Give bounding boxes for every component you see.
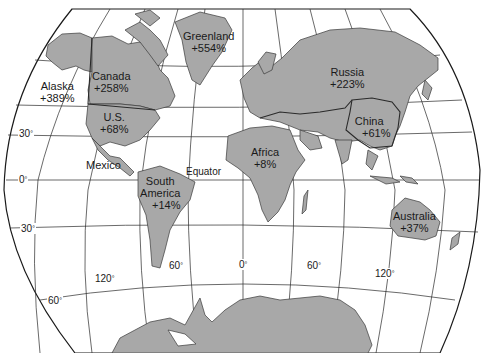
region-value: +8% xyxy=(251,158,279,170)
region-value: +61% xyxy=(348,127,390,139)
label-south-america: South America +14% xyxy=(140,175,180,211)
longitude-label-60w: 60° xyxy=(168,260,184,271)
region-value: +554% xyxy=(183,42,234,54)
latitude-label-0: 0° xyxy=(18,174,28,185)
label-alaska: Alaska +389% xyxy=(40,80,75,104)
region-name: China xyxy=(348,115,390,127)
label-africa: Africa +8% xyxy=(251,146,279,170)
label-mexico: Mexico xyxy=(86,159,121,171)
region-value: +258% xyxy=(92,82,131,94)
region-name-line2: America xyxy=(140,187,180,199)
region-value: +14% xyxy=(140,199,180,211)
longitude-label-120e: 120° xyxy=(374,268,396,279)
label-australia: Australia +37% xyxy=(393,210,436,234)
region-name: U.S. xyxy=(100,111,128,123)
label-greenland: Greenland +554% xyxy=(183,30,234,54)
label-china: China +61% xyxy=(348,115,390,139)
region-value: +37% xyxy=(393,222,436,234)
region-name: Greenland xyxy=(183,30,234,42)
region-name-line1: South xyxy=(140,175,180,187)
label-russia: Russia +223% xyxy=(330,66,365,90)
region-name: Australia xyxy=(393,210,436,222)
region-name: Canada xyxy=(92,70,131,82)
africa-shape xyxy=(226,126,305,222)
region-name: Russia xyxy=(330,66,365,78)
world-map xyxy=(0,0,485,353)
region-name: Mexico xyxy=(86,159,121,171)
longitude-label-0: 0° xyxy=(238,259,248,270)
region-name: Alaska xyxy=(40,80,75,92)
region-value: +389% xyxy=(40,92,75,104)
longitude-label-120w: 120° xyxy=(94,273,116,284)
antarctica-shape xyxy=(112,296,372,353)
label-equator: Equator xyxy=(186,166,221,178)
alaska-shape xyxy=(46,33,92,72)
latitude-label-30s: 30° xyxy=(20,223,36,234)
region-value: +68% xyxy=(100,123,128,135)
region-name: Africa xyxy=(251,146,279,158)
region-value: +223% xyxy=(330,78,365,90)
landmasses xyxy=(46,10,460,353)
latitude-label-30n: 30° xyxy=(18,128,34,139)
label-canada: Canada +258% xyxy=(92,70,131,94)
latitude-label-60s: 60° xyxy=(47,295,63,306)
label-us: U.S. +68% xyxy=(100,111,128,135)
longitude-label-60e: 60° xyxy=(306,260,322,271)
